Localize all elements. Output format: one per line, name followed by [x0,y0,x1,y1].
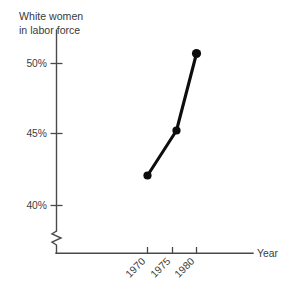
data-point-1975 [172,126,180,134]
x-axis-tick-label-1970: 1970 [123,255,147,279]
data-point-1970 [143,171,151,179]
y-axis-break-icon [52,231,61,253]
series-line-white-women [148,54,197,176]
chart-figure: White women in labor force 50% 45% 40% 1… [0,0,291,295]
x-axis-label-year: Year [257,248,279,259]
x-axis-tick-label-1975: 1975 [148,255,172,279]
chart-title-line-2: in labor force [19,24,80,36]
y-axis-tick-label-45: 45% [26,128,47,139]
y-axis-tick-label-40: 40% [26,200,47,211]
line-chart-canvas: White women in labor force 50% 45% 40% 1… [0,0,291,295]
y-axis-tick-label-50: 50% [26,58,47,69]
chart-title-line-1: White women [19,10,83,22]
data-point-1980 [192,49,201,58]
x-axis-tick-label-1980: 1980 [172,255,196,279]
